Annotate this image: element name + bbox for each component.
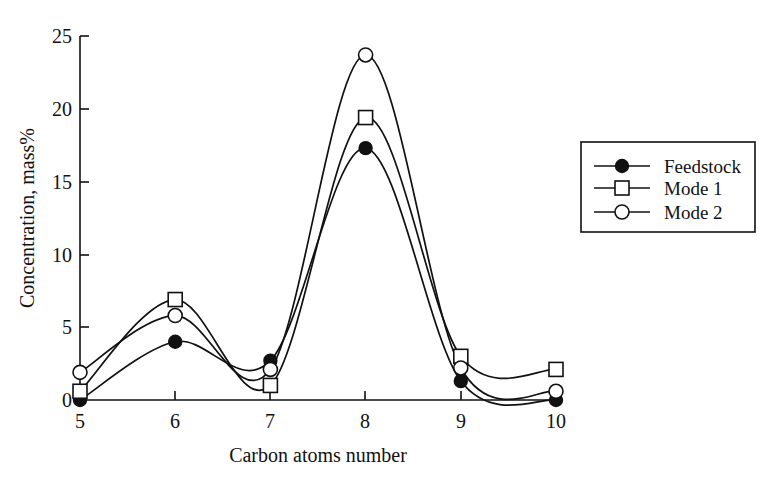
x-tick-label: 5 [75,410,85,432]
series-markers-feedstock [74,142,563,407]
x-tick-label: 10 [546,410,566,432]
open-square-icon [73,384,87,398]
series-curves [80,55,556,405]
legend-label: Mode 2 [664,202,723,223]
series-line-feedstock [80,148,556,405]
x-axis-tick-labels: 5 6 7 8 9 10 [75,410,566,432]
y-axis-tick-labels: 25 20 15 10 5 0 [52,25,72,411]
y-axis-title: Concentration, mass% [16,128,38,308]
y-tick-label: 5 [62,316,72,338]
open-circle-icon [454,361,468,375]
open-circle-icon [549,384,563,398]
series-markers-mode-2 [73,48,563,398]
open-square-icon [263,378,277,392]
open-square-icon [615,181,629,195]
chart-legend: Feedstock Mode 1 Mode 2 [581,142,755,232]
open-circle-icon [73,365,87,379]
x-tick-label: 9 [456,410,466,432]
open-square-icon [168,293,182,307]
legend-label: Mode 1 [664,178,723,199]
chart-figure: 25 20 15 10 5 0 5 6 7 8 9 10 Carbon atom… [0,0,779,482]
series-markers-mode-1 [73,111,563,399]
x-axis-title: Carbon atoms number [229,444,407,466]
x-tick-label: 6 [170,410,180,432]
x-axis-ticks [80,391,556,400]
series-line-mode-2 [80,55,556,400]
open-square-icon [359,111,373,125]
y-tick-label: 20 [52,98,72,120]
x-tick-label: 8 [360,410,370,432]
open-circle-icon [168,309,182,323]
y-axis-ticks [80,36,89,327]
x-tick-label: 7 [265,410,275,432]
filled-circle-icon [169,335,182,348]
y-tick-label: 15 [52,171,72,193]
legend-label: Feedstock [664,156,742,177]
filled-circle-icon [616,160,629,173]
y-tick-label: 10 [52,244,72,266]
open-circle-icon [359,48,373,62]
line-chart: 25 20 15 10 5 0 5 6 7 8 9 10 Carbon atom… [0,0,779,482]
filled-circle-icon [454,375,467,388]
y-tick-label: 25 [52,25,72,47]
open-square-icon [549,362,563,376]
open-circle-icon [615,205,629,219]
open-circle-icon [263,362,277,376]
y-tick-label: 0 [62,389,72,411]
filled-circle-icon [359,142,372,155]
